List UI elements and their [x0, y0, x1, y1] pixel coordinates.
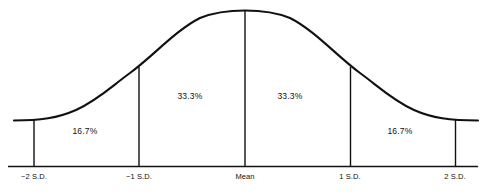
- normal-curve-chart: [0, 0, 490, 193]
- axis-tick-label-pos2sd: 2 S.D.: [444, 172, 465, 181]
- region-label-left-outer: 16.7%: [72, 126, 97, 136]
- axis-tick-label-neg2sd: −2 S.D.: [21, 172, 47, 181]
- region-label-left-inner: 33.3%: [177, 91, 202, 101]
- bell-curve-path: [14, 11, 478, 121]
- normal-distribution-figure: 16.7% 33.3% 33.3% 16.7% −2 S.D. −1 S.D. …: [0, 0, 490, 193]
- axis-tick-label-neg1sd: −1 S.D.: [126, 172, 152, 181]
- region-label-right-outer: 16.7%: [387, 126, 412, 136]
- region-label-right-inner: 33.3%: [277, 91, 302, 101]
- axis-tick-label-mean: Mean: [235, 172, 254, 181]
- axis-tick-label-pos1sd: 1 S.D.: [339, 172, 360, 181]
